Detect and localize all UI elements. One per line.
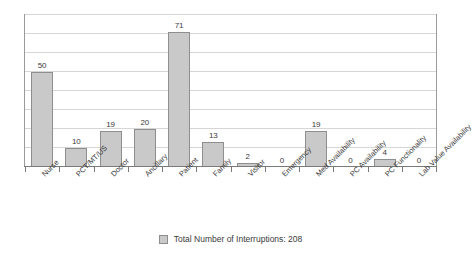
category-slot: PCT/MT/US (59, 172, 93, 232)
category-slot: Patient (162, 172, 196, 232)
category-slot: PC Functionality (368, 172, 402, 232)
bar-value-label: 0 (417, 156, 421, 165)
bar-value-label: 2 (245, 152, 249, 161)
bar[interactable] (168, 32, 190, 167)
category-slot: Ancillary (128, 172, 162, 232)
bar-value-label: 19 (312, 120, 321, 129)
bar-slot: 19 (299, 15, 333, 167)
category-slot: Nurse (25, 172, 59, 232)
category-slot: Emergency (265, 172, 299, 232)
bar-value-label: 20 (140, 118, 149, 127)
bar-slot: 19 (94, 15, 128, 167)
category-slot: PC Availability (333, 172, 367, 232)
legend-swatch-icon (159, 235, 168, 244)
category-slot: Med Availability (299, 172, 333, 232)
bar-slot: 20 (128, 15, 162, 167)
bar-slot: 50 (25, 15, 59, 167)
bar-value-label: 13 (209, 131, 218, 140)
axis-tick (436, 167, 437, 172)
bar-slot: 13 (196, 15, 230, 167)
bar-value-label: 50 (38, 61, 47, 70)
legend-label: Total Number of Interruptions: 208 (174, 234, 303, 244)
bar-value-label: 4 (382, 148, 386, 157)
category-slot: Doctor (94, 172, 128, 232)
bar-slot: 10 (59, 15, 93, 167)
bar-value-label: 71 (175, 21, 184, 30)
bar-value-label: 19 (106, 120, 115, 129)
bar-slot: 0 (265, 15, 299, 167)
chart-legend: Total Number of Interruptions: 208 (0, 234, 461, 244)
category-slot: Family (196, 172, 230, 232)
category-slot: Lab Value Availability (402, 172, 436, 232)
bar-value-label: 0 (280, 156, 284, 165)
x-axis-category-labels: NursePCT/MT/USDoctorAncillaryPatientFami… (25, 172, 436, 232)
category-slot: Visitor (231, 172, 265, 232)
bar-slot: 2 (231, 15, 265, 167)
bar-value-label: 10 (72, 137, 81, 146)
bar-slot: 71 (162, 15, 196, 167)
bar-value-label: 0 (348, 156, 352, 165)
bar[interactable] (31, 72, 53, 167)
